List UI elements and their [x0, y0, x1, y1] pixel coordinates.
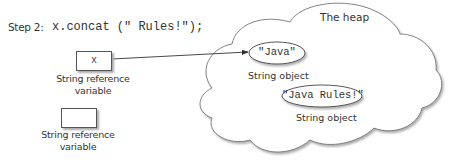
reference-variable-empty-caption: String reference variable: [33, 129, 123, 153]
string-object-java-rules-caption: String object: [296, 112, 357, 123]
caption-line: variable: [48, 85, 138, 97]
reference-variable-x-caption: String reference variable: [48, 73, 138, 97]
reference-variable-x-box: x: [76, 51, 112, 71]
caption-line: variable: [33, 141, 123, 153]
reference-variable-empty-box: [61, 108, 97, 128]
reference-variable-name: x: [77, 52, 111, 70]
caption-line: String reference: [33, 129, 123, 141]
string-object-java-caption: String object: [248, 70, 309, 81]
heap-title: The heap: [320, 11, 369, 23]
step-code: x.concat (" Rules!");: [52, 20, 203, 34]
step-label: Step 2:: [8, 21, 43, 33]
caption-line: String reference: [48, 73, 138, 85]
heap-cloud: [200, 3, 442, 152]
string-object-java-value: "Java": [249, 46, 305, 58]
string-object-java-rules-value: "Java Rules!": [282, 89, 362, 101]
